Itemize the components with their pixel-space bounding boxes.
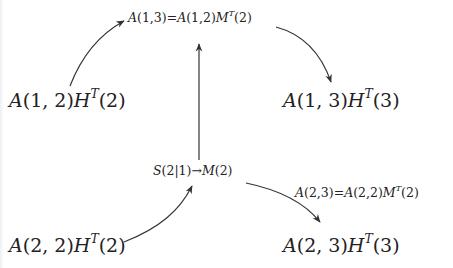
node-a13-equals-a12-mt2: A(1,3)=A(1,2)MT(2) — [128, 12, 252, 25]
label-part: (2,3)= — [304, 185, 344, 200]
label-part: (2) — [215, 163, 233, 178]
label-part: A — [283, 234, 297, 256]
diagram-canvas: A(1,3)=A(1,2)MT(2) A(1, 2)HT(2) A(1, 3)H… — [0, 0, 453, 268]
label-part: S — [153, 163, 162, 178]
node-a13-ht3: A(1, 3)HT(3) — [283, 91, 400, 110]
label-part: A — [295, 185, 304, 200]
edge-a22-to-mid — [124, 186, 192, 242]
node-s21-to-m2: S(2|1)→M(2) — [153, 165, 232, 178]
label-part: (2) — [401, 185, 419, 200]
label-part: A — [344, 185, 353, 200]
node-a23-equals-a22-mt2: A(2,3)=A(2,2)MT(2) — [295, 187, 419, 200]
label-part: (3) — [373, 89, 400, 111]
node-a23-ht3: A(2, 3)HT(3) — [283, 236, 400, 255]
label-part: H — [348, 234, 365, 256]
label-part: (2, 2) — [23, 234, 74, 256]
superscript: T — [90, 232, 98, 246]
superscript: T — [364, 232, 372, 246]
arrow-glyph: → — [191, 163, 201, 178]
label-part: M — [383, 185, 396, 200]
edge-a12-to-top — [70, 21, 124, 86]
edges-layer — [0, 0, 453, 268]
node-a22-ht2: A(2, 2)HT(2) — [9, 236, 126, 255]
label-part: H — [348, 89, 365, 111]
label-part: H — [74, 89, 91, 111]
label-part: (1, 3) — [297, 89, 348, 111]
label-part: (1,3)= — [137, 10, 177, 25]
label-part: M — [202, 163, 215, 178]
edge-top-to-a13 — [276, 27, 331, 82]
label-part: (2) — [99, 234, 126, 256]
label-part: A — [9, 89, 23, 111]
label-part: A — [128, 10, 137, 25]
label-part: A — [283, 89, 297, 111]
label-part: H — [74, 234, 91, 256]
label-part: (2|1) — [162, 163, 192, 178]
label-part: (2) — [234, 10, 252, 25]
node-a12-ht2: A(1, 2)HT(2) — [9, 91, 126, 110]
label-part: (2) — [99, 89, 126, 111]
superscript: T — [90, 87, 98, 101]
label-part: (2,2) — [353, 185, 383, 200]
label-part: A — [177, 10, 186, 25]
label-part: (1,2) — [186, 10, 216, 25]
label-part: A — [9, 234, 23, 256]
label-part: (2, 3) — [297, 234, 348, 256]
superscript: T — [364, 87, 372, 101]
label-part: (1, 2) — [23, 89, 74, 111]
label-part: M — [216, 10, 229, 25]
label-part: (3) — [373, 234, 400, 256]
